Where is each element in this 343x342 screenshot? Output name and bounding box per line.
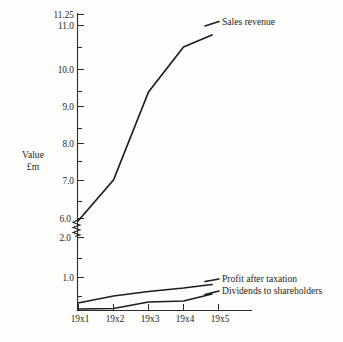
y-tick-label-1: 11.0 — [58, 21, 74, 31]
series-sales-revenue: Sales revenue — [78, 16, 275, 222]
y-tick-label-4: 8.0 — [62, 139, 74, 149]
x-tick-label-4: 19x5 — [211, 314, 230, 324]
series-dividends-to-shareholders: Dividends to shareholders — [78, 285, 322, 309]
x-tick-label-3: 19x4 — [176, 314, 195, 324]
y-tick-label-7: 2.0 — [59, 233, 71, 243]
series-label-dividends-to-shareholders: Dividends to shareholders — [222, 285, 322, 296]
line-chart-canvas: 11.25 11.0 10.0 9.0 8.0 7.0 6.0 2.0 1.0 … — [0, 0, 343, 342]
y-axis-title-line1: Value — [22, 149, 44, 160]
y-axis: 11.25 11.0 10.0 9.0 8.0 7.0 6.0 2.0 1.0 … — [22, 10, 84, 311]
y-axis-break-zigzag — [73, 220, 80, 237]
y-tick-label-2: 10.0 — [58, 65, 75, 75]
series-label-profit-after-taxation: Profit after taxation — [222, 273, 297, 284]
y-tick-label-8: 1.0 — [62, 273, 74, 283]
x-tick-label-1: 19x2 — [106, 314, 125, 324]
y-tick-label-5: 7.0 — [62, 176, 74, 186]
leader-sales-revenue — [205, 22, 219, 27]
series-line-sales-revenue — [78, 35, 212, 221]
y-tick-label-3: 9.0 — [62, 102, 74, 112]
chart-figure: 11.25 11.0 10.0 9.0 8.0 7.0 6.0 2.0 1.0 … — [0, 0, 343, 342]
x-tick-label-2: 19x3 — [141, 314, 160, 324]
leader-profit-after-taxation — [205, 279, 219, 282]
y-tick-label-6: 6.0 — [59, 214, 71, 224]
y-axis-title-line2: £m — [27, 161, 40, 172]
y-tick-label-0: 11.25 — [53, 10, 74, 20]
series-line-profit-after-taxation — [78, 285, 212, 304]
series-label-sales-revenue: Sales revenue — [222, 16, 275, 27]
x-tick-label-0: 19x1 — [71, 314, 90, 324]
x-axis: 19x1 19x2 19x3 19x4 19x5 — [71, 304, 252, 324]
series-line-dividends-to-shareholders — [78, 294, 212, 309]
